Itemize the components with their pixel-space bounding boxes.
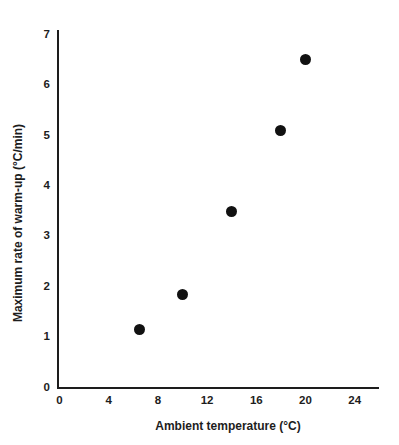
data-point bbox=[275, 125, 286, 136]
y-tick-label-1: 1 bbox=[44, 331, 50, 343]
scatter-plot-figure: Maximum rate of warm-up (°C/min) 0123456… bbox=[0, 0, 399, 445]
x-tick-label-12: 12 bbox=[201, 395, 214, 407]
y-axis-title: Maximum rate of warm-up (°C/min) bbox=[8, 0, 28, 445]
y-axis-title-text: Maximum rate of warm-up (°C/min) bbox=[11, 123, 25, 321]
y-tick-label-5: 5 bbox=[44, 130, 50, 142]
y-tick-label-0: 0 bbox=[44, 382, 50, 394]
y-tick-label-3: 3 bbox=[44, 231, 50, 243]
x-tick-label-0: 0 bbox=[56, 395, 62, 407]
x-axis-title: Ambient temperature (°C) bbox=[0, 419, 399, 433]
x-axis-line bbox=[57, 387, 379, 389]
x-tick-label-24: 24 bbox=[348, 395, 361, 407]
data-point bbox=[300, 54, 311, 65]
data-point bbox=[134, 324, 145, 335]
x-tick-label-8: 8 bbox=[155, 395, 161, 407]
plot-area bbox=[0, 0, 399, 445]
x-axis-title-text: Ambient temperature (°C) bbox=[155, 419, 300, 433]
data-point bbox=[177, 289, 188, 300]
x-tick-label-16: 16 bbox=[250, 395, 263, 407]
y-tick-label-4: 4 bbox=[44, 180, 50, 192]
y-axis-line bbox=[57, 30, 59, 389]
data-point bbox=[226, 206, 237, 217]
x-tick-label-4: 4 bbox=[105, 395, 111, 407]
y-tick-label-6: 6 bbox=[44, 79, 50, 91]
y-tick-label-7: 7 bbox=[44, 29, 50, 41]
x-tick-label-20: 20 bbox=[299, 395, 312, 407]
y-tick-label-2: 2 bbox=[44, 281, 50, 293]
